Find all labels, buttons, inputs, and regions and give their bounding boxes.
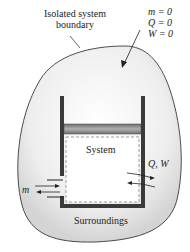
piston [64, 124, 141, 134]
mass-zero-label: m = 0 [148, 6, 173, 17]
heat-work-label: Q, W [148, 158, 169, 169]
boundary-label-line1: Isolated system [40, 8, 110, 19]
boundary-pointer [70, 36, 80, 48]
surroundings-label: Surroundings [74, 215, 128, 226]
container-right-wall [141, 96, 145, 208]
work-zero-label: W = 0 [148, 28, 173, 39]
system-label: System [86, 144, 115, 155]
mass-label: m [22, 184, 29, 195]
container-left-wall [60, 96, 64, 176]
boundary-label-line2: boundary [40, 19, 110, 30]
container-bottom [60, 204, 145, 208]
container-left-lower [60, 196, 64, 208]
heat-zero-label: Q = 0 [148, 17, 173, 28]
